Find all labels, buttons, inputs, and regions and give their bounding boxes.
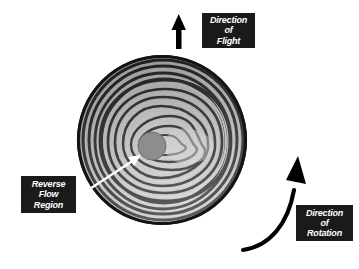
- callout-line: Direction: [210, 15, 247, 25]
- callout-line: Rotation: [307, 228, 342, 238]
- callout-line: Flow: [39, 189, 59, 199]
- callout-line: of: [224, 25, 232, 35]
- rotor-hub: [138, 132, 166, 160]
- reverse-flow-region-callout: Reverse Flow Region: [21, 176, 76, 213]
- direction-of-flight-callout: Direction of Flight: [202, 13, 255, 48]
- callout-line: Reverse: [32, 179, 66, 189]
- callout-line: Region: [34, 200, 63, 210]
- rotor-contour-figure: Direction of Flight Direction of Rotatio…: [0, 0, 359, 269]
- figure-stage: Direction of Flight Direction of Rotatio…: [0, 0, 359, 269]
- callout-line: of: [320, 218, 328, 228]
- callout-line: Flight: [217, 36, 240, 46]
- flight-arrow: [172, 14, 187, 49]
- direction-of-rotation-callout: Direction of Rotation: [296, 205, 353, 241]
- callout-line: Direction: [306, 208, 343, 218]
